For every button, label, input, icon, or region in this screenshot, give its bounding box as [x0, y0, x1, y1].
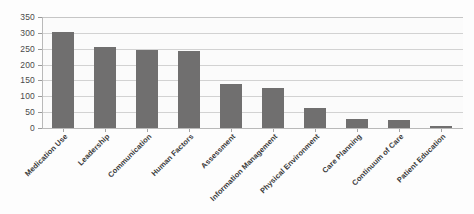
bar-slot	[84, 17, 126, 128]
bar-slot	[210, 17, 252, 128]
x-label-slot: Medication Use	[42, 129, 84, 214]
x-label-slot: Patient Education	[420, 129, 462, 214]
bar-slot	[42, 17, 84, 128]
bar-slot	[378, 17, 420, 128]
bar-continuum-of-care[interactable]	[388, 120, 410, 128]
bar-care-planning[interactable]	[346, 119, 368, 129]
bar-human-factors[interactable]	[178, 51, 200, 128]
bar-slot	[252, 17, 294, 128]
bar-medication-use[interactable]	[52, 32, 74, 128]
bar-slot	[294, 17, 336, 128]
y-axis: 350 300 250 200 150 100 50 0	[0, 0, 42, 128]
bar-slot	[126, 17, 168, 128]
y-tick-label: 350	[20, 12, 35, 22]
bar-slot	[336, 17, 378, 128]
bar-physical-environment[interactable]	[304, 108, 326, 128]
bar-assessment[interactable]	[220, 84, 242, 128]
y-tick-label: 150	[20, 75, 35, 85]
bar-slot	[420, 17, 462, 128]
y-tick-label: 200	[20, 60, 35, 70]
bar-information-management[interactable]	[262, 88, 284, 128]
y-tick-label: 50	[25, 107, 35, 117]
bars-layer	[42, 17, 462, 128]
x-axis: Medication Use Leadership Communication …	[42, 129, 462, 214]
x-label-slot: Human Factors	[168, 129, 210, 214]
y-tick-label: 100	[20, 91, 35, 101]
bar-communication[interactable]	[136, 50, 158, 128]
bar-leadership[interactable]	[94, 47, 116, 129]
bar-chart: 350 300 250 200 150 100 50 0	[0, 0, 474, 214]
bar-slot	[168, 17, 210, 128]
y-tick-label: 250	[20, 44, 35, 54]
y-tick-label: 300	[20, 28, 35, 38]
x-axis-label-medication-use: Medication Use	[23, 132, 69, 178]
y-tick-label: 0	[30, 123, 35, 133]
bar-patient-education[interactable]	[430, 126, 452, 128]
